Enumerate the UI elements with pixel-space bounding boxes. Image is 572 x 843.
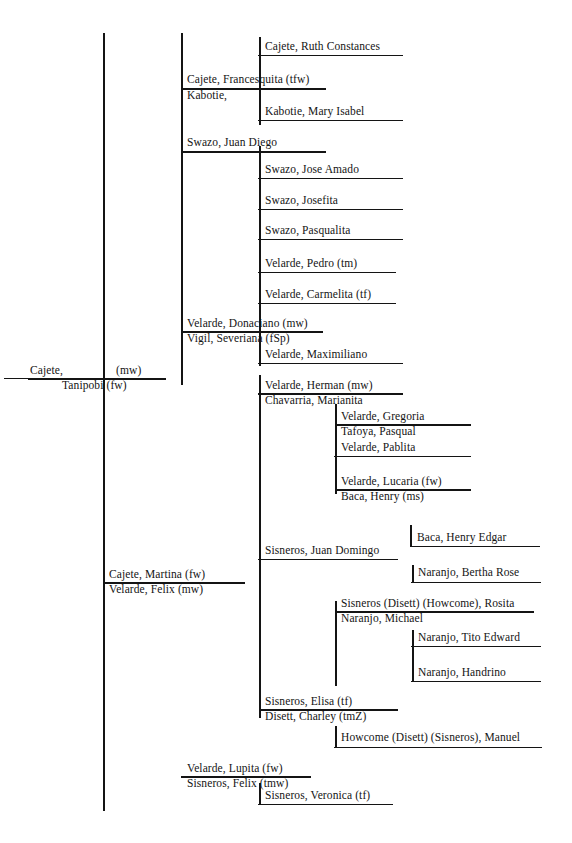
node-kabotie-label: Kabotie,: [187, 89, 227, 101]
node-velarde-felix-label: Velarde, Felix (mw): [109, 583, 203, 595]
node-sisneros-felix-label: Sisneros, Felix (tmw): [187, 777, 288, 789]
node-cajete-martina-label: Cajete, Martina (fw): [109, 568, 205, 580]
genealogy-chart: Cajete, (mw) Tanipobi (fw) Cajete, Ruth …: [0, 0, 572, 843]
node-velarde-pedro-rule: [258, 272, 396, 273]
node-velarde-herman-label: Velarde, Herman (mw): [265, 379, 373, 391]
node-naranjo-tito-rule: [411, 646, 541, 647]
node-cajete-francesquita-label: Cajete, Francesquita (tfw): [187, 73, 309, 85]
node-velarde-pablita-label: Velarde, Pablita: [341, 441, 415, 453]
node-naranjo-bertha-rule: [411, 582, 541, 583]
node-swazo-jose-rule: [258, 178, 403, 179]
node-naranjo-michael-label: Naranjo, Michael: [341, 612, 423, 624]
node-velarde-carmelita-rule: [258, 303, 396, 304]
spine-generation-3-d: [259, 375, 261, 551]
node-swazo-josefita-rule: [258, 209, 403, 210]
node-velarde-donaciano-label: Velarde, Donaciano (mw): [187, 317, 308, 329]
node-kabotie-mary-label: Kabotie, Mary Isabel: [265, 105, 364, 117]
node-swazo-jose-label: Swazo, Jose Amado: [265, 163, 359, 175]
node-velarde-lucaria-label: Velarde, Lucaria (fw): [341, 475, 442, 487]
root-person-tag: (mw): [116, 364, 141, 376]
node-baca-henry-edgar-rule: [410, 546, 540, 547]
root-spouse-label: Tanipobi (fw): [62, 379, 127, 391]
node-sisneros-juan-rule: [258, 559, 398, 560]
spine-generation-4-naranjo-parent: [335, 601, 337, 686]
node-baca-henry-edgar-label: Baca, Henry Edgar: [417, 531, 507, 543]
node-disett-charley-label: Disett, Charley (tmZ): [265, 710, 366, 722]
node-swazo-juan-rule: [181, 151, 326, 153]
node-cajete-ruth-label: Cajete, Ruth Constances: [265, 40, 380, 52]
spine-generation-5-naranjo-b: [412, 630, 414, 682]
spine-generation-4-velarde: [335, 404, 337, 494]
node-kabotie-mary-rule: [258, 120, 403, 121]
node-cajete-ruth-rule: [258, 55, 403, 56]
node-velarde-maximiliano-rule: [258, 363, 403, 364]
root-person-label: Cajete,: [30, 364, 63, 376]
node-velarde-gregoria-label: Velarde, Gregoria: [341, 410, 424, 422]
node-naranjo-handrino-label: Naranjo, Handrino: [418, 666, 506, 678]
node-velarde-pedro-label: Velarde, Pedro (tm): [265, 257, 357, 269]
node-sisneros-juan-label: Sisneros, Juan Domingo: [265, 544, 379, 556]
spine-generation-5-baca: [410, 525, 412, 547]
node-swazo-josefita-label: Swazo, Josefita: [265, 194, 338, 206]
node-howcome-manuel-rule: [334, 747, 542, 748]
node-sisneros-veronica-rule: [258, 804, 393, 805]
node-naranjo-handrino-rule: [411, 681, 541, 682]
spine-generation-3-c: [259, 248, 261, 366]
node-chavarria-marianita-label: Chavarria, Marianita: [265, 394, 363, 406]
spine-generation-5-naranjo: [412, 565, 414, 583]
spine-generation-4-disett: [335, 726, 337, 748]
node-naranjo-bertha-label: Naranjo, Bertha Rose: [418, 566, 519, 578]
node-velarde-pablita-rule: [334, 456, 471, 457]
node-swazo-pasqualita-rule: [258, 239, 403, 240]
node-vigil-severiana-label: Vigil, Severiana (fSp): [187, 332, 290, 344]
node-swazo-juan-label: Swazo, Juan Diego: [187, 136, 277, 148]
node-baca-henry-label: Baca, Henry (ms): [341, 490, 424, 502]
node-howcome-manuel-label: Howcome (Disett) (Sisneros), Manuel: [341, 731, 520, 743]
node-sisneros-rosita-label: Sisneros (Disett) (Howcome), Rosita: [341, 597, 514, 609]
node-velarde-carmelita-label: Velarde, Carmelita (tf): [265, 288, 371, 300]
spine-generation-3-sisneros: [259, 538, 261, 718]
node-sisneros-veronica-label: Sisneros, Veronica (tf): [265, 789, 370, 801]
root-connector: [4, 378, 30, 379]
node-velarde-maximiliano-label: Velarde, Maximiliano: [265, 348, 367, 360]
spine-generation-2-lower: [103, 560, 105, 775]
node-sisneros-elisa-label: Sisneros, Elisa (tf): [265, 695, 352, 707]
node-swazo-pasqualita-label: Swazo, Pasqualita: [265, 224, 350, 236]
node-naranjo-tito-label: Naranjo, Tito Edward: [418, 631, 520, 643]
node-velarde-lupita-label: Velarde, Lupita (fw): [187, 762, 283, 774]
node-tafoya-pasqual-label: Tafoya, Pasqual: [341, 425, 416, 437]
